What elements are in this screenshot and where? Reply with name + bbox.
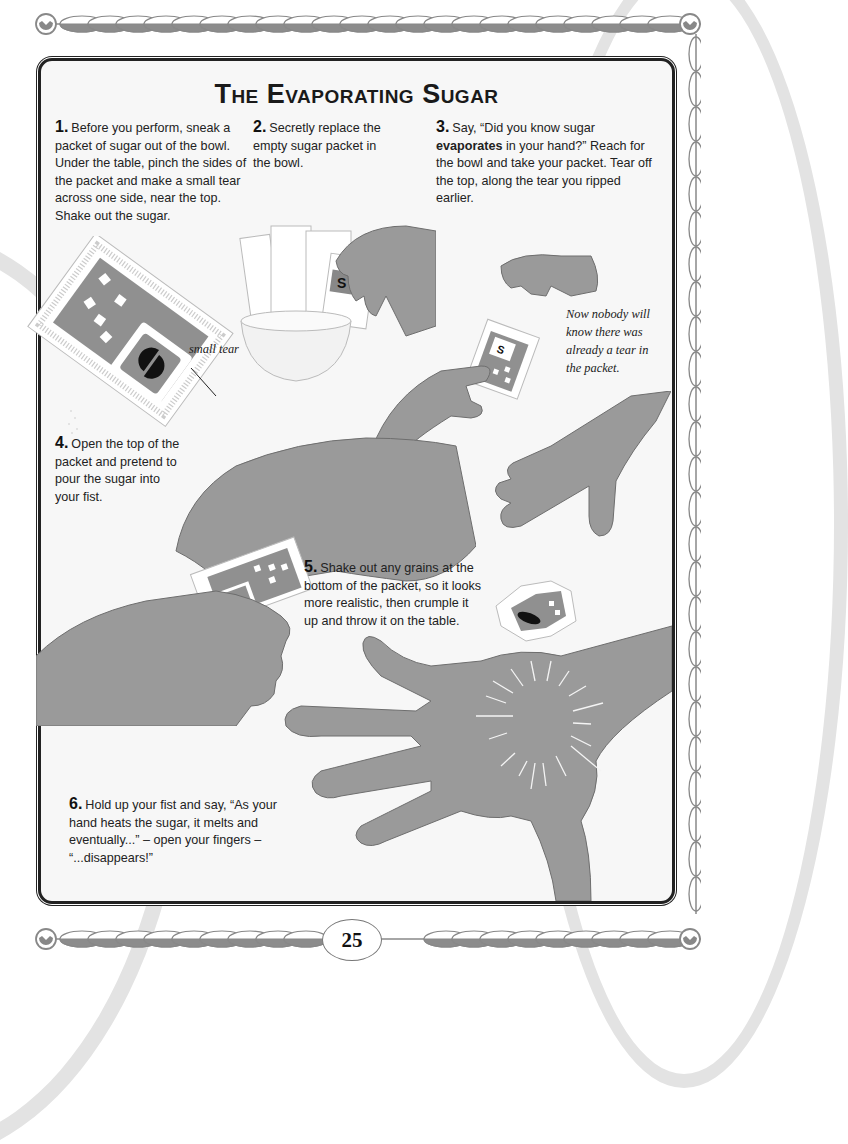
- step-1-number: 1.: [55, 118, 68, 135]
- dropping-hand-illustration: [481, 391, 671, 551]
- step-1: 1.Before you perform, sneak a packet of …: [55, 118, 255, 225]
- reassurance-note: Now nobody will know there was already a…: [566, 305, 661, 377]
- step-6-number: 6.: [69, 795, 82, 812]
- step-5: 5.Shake out any grains at the bottom of …: [304, 558, 484, 630]
- step-6: 6.Hold up your fist and say, “As your ha…: [69, 795, 289, 867]
- right-bead-border: [686, 34, 701, 914]
- content-panel: The Evaporating Sugar 1.Before you perfo…: [38, 58, 675, 904]
- svg-text:S: S: [337, 275, 346, 291]
- top-bead-border: [34, 12, 701, 36]
- step-5-number: 5.: [304, 558, 317, 575]
- step-2: 2.Secretly replace the empty sugar packe…: [253, 118, 389, 173]
- step-3-bold-word: evaporates: [436, 139, 503, 153]
- step-3-number: 3.: [436, 118, 449, 135]
- step-6-text: Hold up your fist and say, “As your hand…: [69, 798, 277, 865]
- step-1-text: Before you perform, sneak a packet of su…: [55, 121, 246, 223]
- small-tear-label: small tear: [189, 340, 239, 358]
- page-title: The Evaporating Sugar: [41, 79, 672, 110]
- open-palm-illustration: [281, 621, 672, 901]
- step-2-text: Secretly replace the empty sugar packet …: [253, 121, 381, 170]
- step-5-text: Shake out any grains at the bottom of th…: [304, 561, 481, 628]
- step-3: 3.Say, “Did you know sugar evaporates in…: [436, 118, 656, 208]
- page-number: 25: [322, 919, 382, 961]
- step-2-number: 2.: [253, 118, 266, 135]
- step-3-text-before: Say, “Did you know sugar: [452, 121, 595, 135]
